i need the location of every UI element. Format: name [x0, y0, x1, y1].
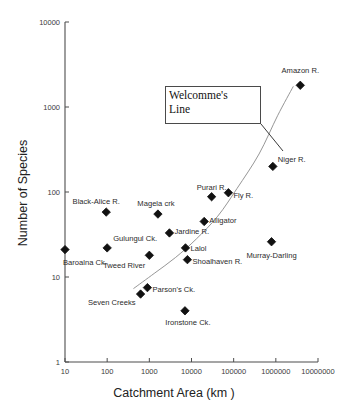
data-point-label: Black-Alice R. — [73, 198, 120, 206]
x-tick-label: 100 — [101, 367, 114, 376]
data-point-marker — [136, 290, 144, 298]
x-tick-label: 10000000 — [301, 367, 334, 376]
data-point-marker — [200, 217, 208, 225]
data-point-label: Purari R. — [197, 184, 227, 192]
x-tick-label: 1000000 — [261, 367, 290, 376]
data-point-marker — [103, 244, 111, 252]
y-tick-label: 10000 — [20, 18, 60, 27]
data-point-label: Niger R. — [278, 156, 306, 164]
data-point-marker — [145, 251, 153, 259]
data-point-label: Ironstone Ck. — [165, 319, 210, 327]
annotation-line-1: Welcomme's — [169, 89, 257, 103]
data-point-label: Shoalhaven R. — [192, 258, 242, 266]
data-point-label: Amazon R. — [281, 67, 319, 75]
data-point-marker — [296, 81, 304, 89]
y-tick-label: 1 — [20, 358, 60, 367]
data-point-label: Alligator — [209, 217, 236, 225]
x-tick-label: 10 — [61, 367, 69, 376]
data-point-label: Murray-Darling — [246, 252, 296, 260]
data-point-label: Magela crk — [137, 200, 174, 208]
scatter-chart: 1010010001000010000010000001000000011010… — [0, 0, 348, 415]
data-point-marker — [269, 162, 277, 170]
data-point-marker — [143, 283, 151, 291]
data-point-label: Parson's Ck. — [152, 286, 195, 294]
data-point-marker — [102, 208, 110, 216]
welcommes-line-annotation: Welcomme's Line — [165, 86, 261, 124]
x-tick-label: 1000 — [141, 367, 158, 376]
data-point-label: Gulungul Ck. — [113, 235, 157, 243]
data-point-marker — [165, 229, 173, 237]
data-point-label: Lalol — [190, 245, 206, 253]
x-axis-title: Catchment Area (km ) — [0, 386, 348, 400]
x-tick-label: 10000 — [181, 367, 202, 376]
annotation-line-2: Line — [169, 103, 257, 117]
data-point-label: Jardine R. — [174, 228, 209, 236]
data-point-marker — [207, 193, 215, 201]
data-point-marker — [61, 245, 69, 253]
axes — [65, 22, 318, 362]
y-axis-title: Number of Species — [16, 108, 30, 278]
data-point-label: Fly R. — [233, 192, 253, 200]
data-point-label: Seven Creeks — [0, 299, 136, 307]
data-point-marker — [183, 255, 191, 263]
data-point-marker — [181, 244, 189, 252]
x-tick-label: 100000 — [221, 367, 246, 376]
data-point-marker — [267, 238, 275, 246]
data-point-marker — [181, 307, 189, 315]
data-point-marker — [154, 210, 162, 218]
